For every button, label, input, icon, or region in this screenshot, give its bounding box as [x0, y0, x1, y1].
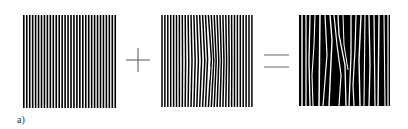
plus-sign	[126, 48, 150, 76]
reference-grating-image	[23, 15, 117, 108]
reference-grating-panel	[23, 15, 117, 108]
figure-label: a)	[17, 114, 25, 125]
moire-pattern-panel	[299, 15, 390, 106]
deformed-grating-panel	[161, 15, 253, 107]
equals-icon	[264, 52, 289, 70]
plus-icon	[126, 48, 150, 72]
deformed-grating-image	[161, 15, 253, 107]
moire-pattern-image	[299, 15, 390, 106]
equals-sign	[264, 52, 289, 74]
